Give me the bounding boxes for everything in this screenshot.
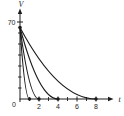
x-tick-label: 4 xyxy=(56,103,60,110)
discharge-curves-figure: Vt0702468 xyxy=(0,0,124,116)
zero-dot-t2 xyxy=(37,97,40,100)
start-point-dot xyxy=(18,26,22,30)
x-tick-label: 6 xyxy=(75,103,79,110)
origin-label: 0 xyxy=(12,101,16,108)
x-axis-title: t xyxy=(118,95,121,104)
zero-dot-t4 xyxy=(56,97,59,100)
x-tick-label: 2 xyxy=(37,103,41,110)
x-tick-label: 8 xyxy=(94,103,98,110)
voltage-vs-time-chart: Vt0702468 xyxy=(0,0,124,116)
y-tick-label: 70 xyxy=(8,19,16,26)
y-axis-title: V xyxy=(19,0,25,9)
x-axis-arrowhead xyxy=(108,97,114,101)
zero-dot-t1 xyxy=(28,97,31,100)
y-axis-arrowhead xyxy=(18,9,22,15)
zero-dot-t8 xyxy=(94,97,97,100)
